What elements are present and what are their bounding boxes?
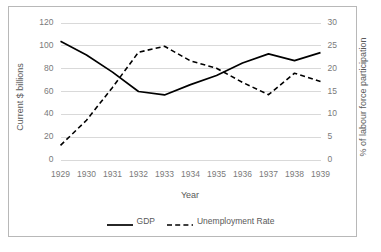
series-line-gdp xyxy=(61,41,321,95)
y-tick-left-0: 0 xyxy=(28,154,54,164)
y-tick-left-120: 120 xyxy=(28,17,54,27)
y-tick-right-30: 30 xyxy=(328,17,354,27)
x-tick-1932: 1932 xyxy=(126,169,152,179)
x-tick-1934: 1934 xyxy=(178,169,204,179)
y-axis-left-title: Current $ billions xyxy=(15,37,25,157)
y-tick-left-20: 20 xyxy=(28,131,54,141)
chart-plot xyxy=(0,0,381,252)
y-tick-left-40: 40 xyxy=(28,108,54,118)
x-tick-1933: 1933 xyxy=(152,169,178,179)
y-tick-right-25: 25 xyxy=(328,40,354,50)
x-tick-1929: 1929 xyxy=(48,169,74,179)
y-tick-left-80: 80 xyxy=(28,63,54,73)
chart-legend: GDPUnemployment Rate xyxy=(0,216,381,226)
y-axis-right-title: % of labour force participation xyxy=(358,37,368,157)
series-line-unemployment-rate xyxy=(61,46,321,145)
y-tick-right-20: 20 xyxy=(328,63,354,73)
chart-figure: 020406080100120 051015202530 19291930193… xyxy=(0,0,381,252)
x-tick-1938: 1938 xyxy=(282,169,308,179)
legend-swatch-dashed-icon xyxy=(167,216,193,226)
legend-label: GDP xyxy=(137,216,155,226)
x-tick-1931: 1931 xyxy=(100,169,126,179)
x-tick-1939: 1939 xyxy=(308,169,334,179)
x-axis-title: Year xyxy=(130,190,250,200)
x-tick-1937: 1937 xyxy=(256,169,282,179)
y-tick-right-15: 15 xyxy=(328,86,354,96)
legend-label: Unemployment Rate xyxy=(197,216,274,226)
y-tick-right-10: 10 xyxy=(328,108,354,118)
x-tick-1930: 1930 xyxy=(74,169,100,179)
legend-swatch-solid-icon xyxy=(107,216,133,226)
series-lines xyxy=(61,41,321,145)
y-tick-left-100: 100 xyxy=(28,40,54,50)
y-tick-left-60: 60 xyxy=(28,86,54,96)
gridlines xyxy=(61,23,321,160)
legend-entry-unemployment-rate[interactable]: Unemployment Rate xyxy=(167,216,274,226)
y-tick-right-0: 0 xyxy=(328,154,354,164)
legend-entry-gdp[interactable]: GDP xyxy=(107,216,155,226)
x-tick-1936: 1936 xyxy=(230,169,256,179)
x-tick-1935: 1935 xyxy=(204,169,230,179)
y-tick-right-5: 5 xyxy=(328,131,354,141)
